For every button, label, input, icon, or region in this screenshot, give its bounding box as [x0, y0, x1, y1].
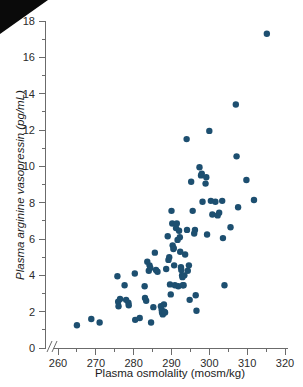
scatter-point: [216, 209, 222, 215]
y-tick-label: 2: [29, 306, 35, 318]
scatter-point: [154, 269, 160, 275]
scatter-point: [243, 177, 249, 183]
scatter-point: [171, 262, 177, 268]
scatter-point: [121, 282, 127, 288]
y-tick-label: 4: [29, 269, 35, 281]
scatter-point: [168, 291, 174, 297]
scatter-point: [251, 197, 257, 203]
y-tick-label: 0: [29, 342, 35, 354]
scatter-point: [206, 128, 212, 134]
scatter-point: [163, 266, 169, 272]
y-axis-title: Plasma arginine vasopressin (pg/mL): [14, 90, 26, 280]
scatter-point: [233, 101, 239, 107]
scatter-point: [186, 262, 192, 268]
x-axis-title: Plasma osmolality (mosm/kg): [95, 367, 245, 379]
scatter-point: [174, 220, 180, 226]
scatter-point: [171, 245, 177, 251]
y-tick-label: 8: [29, 197, 35, 209]
scatter-point: [143, 298, 149, 304]
scatter-point: [196, 164, 202, 170]
scatter-point: [152, 249, 158, 255]
scatter-point: [177, 234, 183, 240]
scatter-point: [192, 227, 198, 233]
x-tick-label: 320: [276, 357, 294, 369]
scatter-point: [176, 228, 182, 234]
scatter-point: [147, 265, 153, 271]
scatter-points-group: [74, 31, 270, 329]
scatter-point: [96, 319, 102, 325]
y-tick-label: 16: [23, 51, 35, 63]
plot-canvas: 024681012141618 260270280290300310320 Pl…: [0, 0, 303, 387]
scatter-point: [220, 235, 226, 241]
scatter-plot-figure: 024681012141618 260270280290300310320 Pl…: [0, 0, 303, 387]
scatter-point: [162, 309, 168, 315]
scatter-point: [178, 267, 184, 273]
y-tick-label: 6: [29, 233, 35, 245]
scatter-point: [221, 282, 227, 288]
scatter-point: [193, 308, 199, 314]
scatter-point: [150, 304, 156, 310]
scatter-point: [165, 233, 171, 239]
scatter-point: [188, 179, 194, 185]
scatter-point: [202, 180, 208, 186]
y-tick-label: 18: [23, 15, 35, 27]
x-axis-ticks: [58, 349, 285, 356]
scatter-point: [126, 302, 132, 308]
scatter-point: [148, 319, 154, 325]
x-axis: 260270280290300310320: [49, 349, 294, 370]
scatter-point: [204, 231, 210, 237]
scatter-point: [182, 251, 188, 257]
scatter-point: [233, 153, 239, 159]
scatter-point: [199, 199, 205, 205]
scatter-point: [219, 198, 225, 204]
scatter-point: [161, 301, 167, 307]
scatter-point: [168, 208, 174, 214]
scatter-point: [88, 316, 94, 322]
y-axis-ticks: [39, 21, 46, 348]
scatter-point: [186, 297, 192, 303]
scatter-point: [212, 199, 218, 205]
scatter-point: [117, 296, 123, 302]
scatter-point: [184, 227, 190, 233]
scatter-point: [183, 136, 189, 142]
scatter-point: [203, 174, 209, 180]
scatter-point: [132, 270, 138, 276]
scatter-point: [185, 268, 191, 274]
scatter-point: [189, 208, 195, 214]
scatter-point: [235, 204, 241, 210]
scatter-point: [193, 292, 199, 298]
scatter-point: [166, 254, 172, 260]
scatter-point: [180, 282, 186, 288]
scatter-point: [74, 322, 80, 328]
scatter-point: [114, 273, 120, 279]
scatter-point: [141, 283, 147, 289]
scatter-point: [227, 224, 233, 230]
scatter-point: [137, 315, 143, 321]
axis-break-marks: [47, 341, 57, 352]
y-axis: 024681012141618: [23, 15, 46, 354]
scatter-point: [264, 31, 270, 37]
x-tick-label: 260: [49, 357, 67, 369]
scatter-point: [115, 303, 121, 309]
